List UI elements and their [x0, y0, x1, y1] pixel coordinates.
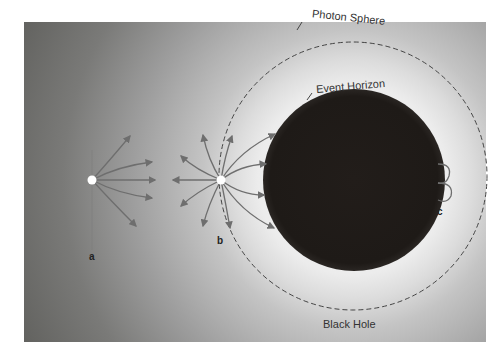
rays-a	[92, 136, 155, 226]
diagram-canvas	[0, 0, 503, 357]
point-a-label: a	[89, 251, 95, 262]
light-source-b	[217, 176, 226, 185]
black-hole-label: Black Hole	[323, 318, 376, 330]
black-hole-disk	[263, 89, 445, 271]
point-c-label: c	[437, 206, 443, 217]
point-b-label: b	[217, 235, 223, 246]
light-source-a	[88, 176, 97, 185]
photon-sphere-leader	[297, 22, 302, 30]
event-horizon-leader	[307, 93, 312, 100]
